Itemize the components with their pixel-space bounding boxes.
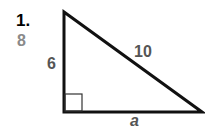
vertical-leg-label: 6: [47, 56, 56, 72]
horizontal-leg-label: a: [130, 113, 139, 129]
hypotenuse-label: 10: [134, 44, 152, 60]
right-triangle-diagram: [0, 0, 205, 139]
triangle-shape: [64, 12, 202, 112]
right-angle-marker: [65, 94, 82, 111]
